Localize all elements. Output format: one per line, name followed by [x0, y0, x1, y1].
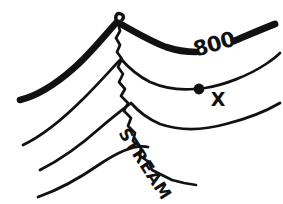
point-marker-dot: [194, 84, 205, 95]
contour-sketch-figure: 800 X STREAM: [0, 0, 283, 204]
sketch-canvas: 800 X STREAM: [0, 0, 283, 204]
point-marker-label-x: X: [211, 88, 226, 110]
